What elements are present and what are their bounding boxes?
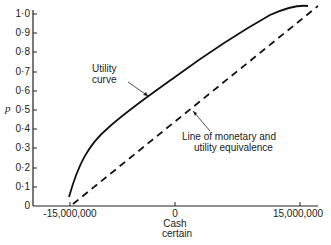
svg-text:Line of monetary and: Line of monetary and (182, 131, 276, 142)
svg-text:0·7: 0·7 (16, 66, 31, 77)
svg-text:curve: curve (92, 74, 117, 85)
svg-text:0·1: 0·1 (16, 181, 31, 192)
svg-text:0·5: 0·5 (16, 104, 31, 115)
x-axis-label: Cash certain (162, 218, 192, 239)
svg-text:utility equivalence: utility equivalence (194, 142, 273, 153)
svg-text:0·9: 0·9 (16, 27, 31, 38)
svg-text:15,000,000: 15,000,000 (273, 208, 323, 219)
utility-curve-annotation: Utility curve (92, 63, 148, 96)
y-tick-labels: 0 0·1 0·2 0·3 0·4 0·5 0·6 0·7 0·8 0·9 1·… (16, 8, 31, 211)
svg-text:0·6: 0·6 (16, 85, 31, 96)
svg-text:0: 0 (24, 200, 30, 211)
utility-chart: 0 0·1 0·2 0·3 0·4 0·5 0·6 0·7 0·8 0·9 1·… (0, 0, 331, 245)
svg-text:-15,000,000: -15,000,000 (43, 208, 97, 219)
svg-text:0·2: 0·2 (16, 162, 31, 173)
svg-text:0·8: 0·8 (16, 46, 31, 57)
svg-text:Utility: Utility (92, 63, 116, 74)
svg-text:certain: certain (162, 228, 192, 239)
svg-text:0·3: 0·3 (16, 142, 31, 153)
utility-curve-line (69, 6, 308, 197)
y-axis-label: p (4, 102, 11, 114)
equivalence-dashed-line (73, 6, 318, 204)
svg-text:1·0: 1·0 (16, 8, 31, 19)
equivalence-annotation: Line of monetary and utility equivalence (182, 111, 276, 153)
svg-text:0·4: 0·4 (16, 123, 31, 134)
